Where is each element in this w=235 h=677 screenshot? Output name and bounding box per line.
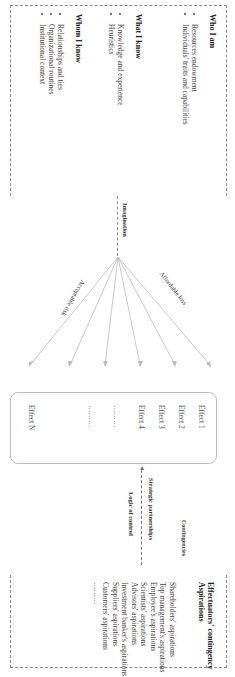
list-item: Top management's aspirations [158,582,168,677]
effect-ellipsis: ……… [87,405,96,428]
list-item: Suppliers' aspirations [111,582,121,677]
effects-box: Effect 1 Effect 2 Effect 3 Effect 4 ……… … [10,392,217,464]
list-item: Employee's aspirations [149,582,159,677]
list-item: Shareholders' aspirations [168,582,178,677]
whom-i-know-title: Whom I know [74,14,83,63]
who-i-am-title: Who I am [208,14,217,48]
list-item: Resources endowment [190,24,199,184]
arrow-left-icon: ◂ [138,466,147,470]
list-item: Investment banker's aspirations [120,582,130,677]
list-item: Relationships and ties [56,24,65,184]
aspirations-list: Shareholders' aspirations Top management… [92,582,178,677]
list-item: Scientists' aspirations [139,582,149,677]
imagination-label: Imagination [122,203,129,237]
list-item: Organizational routines [47,24,56,184]
who-i-am-list: Resources endowment Individuals' traits … [181,14,199,184]
logic-of-control-label: Logic of control [128,492,135,536]
list-item: Heuristics [107,24,116,184]
list-item: Advisors' aspirations [130,582,140,677]
strategic-partnerships-label: Strategic partnerships [148,478,155,540]
effect-n: Effect N [27,405,36,430]
effect-2: Effect 2 [177,405,186,429]
list-item: ……… [92,582,102,677]
what-i-know-title: What I know [134,14,143,59]
effect-1: Effect 1 [197,405,206,429]
imagination-line [117,196,118,256]
list-item: Institutional context [38,24,47,184]
list-item: Individuals' traits and capabilities [181,24,190,184]
contingencies-label: Contingencies [181,520,187,556]
what-i-know-list: Knowledge and experience Heuristics [107,14,125,184]
aspirations-title: Effectuators' contingency Aspirations [197,582,215,672]
fan-arrows [15,255,215,385]
whom-i-know-list: Relationships and ties Organizational ro… [38,14,65,184]
effectuation-diagram: Who I am Resources endowment Individuals… [0,0,235,677]
effect-3: Effect 3 [157,405,166,429]
effect-ellipsis: ……… [112,405,121,428]
list-item: Knowledge and experience [116,24,125,184]
effect-4: Effect 4 [137,405,146,429]
logic-arrow-line [141,470,142,565]
list-item: Customers' aspirations [101,582,111,677]
